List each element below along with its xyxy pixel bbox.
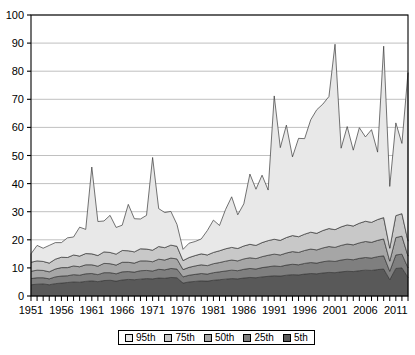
stacked-areas	[31, 44, 408, 296]
legend-item-label: 75th	[175, 333, 194, 343]
legend-item-95th[interactable]: 95th	[125, 333, 155, 343]
x-tick-label: 1951	[19, 304, 43, 316]
legend-item-5th[interactable]: 5th	[283, 333, 308, 343]
x-tick-label: 1956	[49, 304, 73, 316]
y-tick-label: 90	[12, 37, 24, 49]
legend-swatch-icon	[164, 334, 172, 342]
legend-swatch-icon	[125, 334, 133, 342]
legend-swatch-icon	[204, 334, 212, 342]
y-tick-label: 70	[12, 93, 24, 105]
x-tick-label: 1981	[201, 304, 225, 316]
chart-canvas: 0102030405060708090100195119561961196619…	[0, 0, 415, 355]
y-tick-label: 50	[12, 150, 24, 162]
legend-item-label: 5th	[294, 333, 308, 343]
y-axis: 0102030405060708090100	[6, 9, 31, 302]
x-tick-label: 1971	[140, 304, 164, 316]
legend-item-50th[interactable]: 50th	[204, 333, 234, 343]
y-tick-label: 80	[12, 65, 24, 77]
x-tick-label: 2011	[384, 304, 408, 316]
y-tick-label: 40	[12, 178, 24, 190]
legend-swatch-icon	[243, 334, 251, 342]
x-axis: 1951195619611966197119761981198619911996…	[19, 296, 408, 316]
x-tick-label: 1996	[292, 304, 316, 316]
y-tick-label: 60	[12, 121, 24, 133]
y-tick-label: 100	[6, 9, 24, 21]
x-tick-label: 2006	[353, 304, 377, 316]
x-tick-label: 1966	[110, 304, 134, 316]
x-tick-label: 1991	[262, 304, 286, 316]
y-tick-label: 20	[12, 234, 24, 246]
legend-swatch-icon	[283, 334, 291, 342]
legend-item-label: 95th	[136, 333, 155, 343]
x-tick-label: 1976	[171, 304, 195, 316]
y-tick-label: 0	[18, 290, 24, 302]
legend-item-label: 25th	[254, 333, 273, 343]
y-tick-label: 10	[12, 262, 24, 274]
y-tick-label: 30	[12, 206, 24, 218]
legend-item-label: 50th	[215, 333, 234, 343]
legend-item-75th[interactable]: 75th	[164, 333, 194, 343]
chart-legend: 95th75th50th25th5th	[118, 330, 315, 345]
stacked-area-chart: 0102030405060708090100195119561961196619…	[0, 0, 415, 355]
x-tick-label: 1961	[80, 304, 104, 316]
x-tick-label: 1986	[232, 304, 256, 316]
x-tick-label: 2001	[323, 304, 347, 316]
legend-item-25th[interactable]: 25th	[243, 333, 273, 343]
